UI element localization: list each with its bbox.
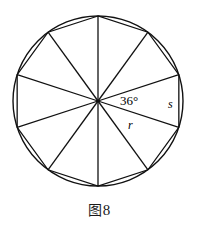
radius-spoke-7 xyxy=(98,101,179,127)
figure-container: 36° s r 图8 xyxy=(0,0,199,227)
caption-number: 8 xyxy=(103,202,112,218)
radius-spoke-8 xyxy=(98,75,179,101)
radius-spoke-9 xyxy=(98,32,148,101)
radius-spoke-4 xyxy=(48,101,98,170)
radius-spoke-6 xyxy=(98,101,148,170)
figure-caption: 图8 xyxy=(0,199,199,219)
caption-glyph: 图 xyxy=(88,202,103,218)
radius-spoke-3 xyxy=(17,101,98,127)
radius-label: r xyxy=(128,119,133,131)
central-angle-label: 36° xyxy=(120,94,138,107)
radius-spoke-2 xyxy=(17,75,98,101)
side-length-label: s xyxy=(168,98,173,110)
radius-spoke-1 xyxy=(48,32,98,101)
